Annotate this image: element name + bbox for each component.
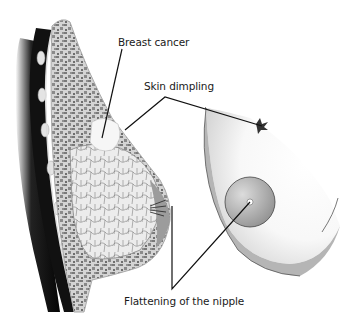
- breast-cancer-diagram: [0, 0, 348, 321]
- glandular-tissue: [70, 144, 160, 259]
- external-view: [204, 108, 340, 276]
- cross-section: [16, 20, 171, 312]
- label-skin-dimpling: Skin dimpling: [144, 80, 214, 92]
- label-nipple-flattening: Flattening of the nipple: [124, 295, 244, 307]
- label-breast-cancer: Breast cancer: [118, 36, 189, 48]
